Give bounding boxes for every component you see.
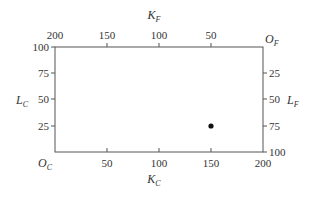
- origin-c-label: OC: [38, 156, 53, 172]
- bottom-tick-150: 150: [203, 157, 220, 169]
- bottom-tick-50: 50: [102, 157, 114, 169]
- right-tick-50: 50: [269, 93, 281, 105]
- left-tick-25: 25: [38, 120, 50, 132]
- left-tick-100: 100: [33, 41, 50, 53]
- left-axis-label: LC: [15, 93, 29, 109]
- right-tick-75: 75: [269, 120, 281, 132]
- right-axis-label: LF: [286, 93, 299, 109]
- top-tick-50: 50: [206, 29, 218, 41]
- top-tick-150: 150: [99, 29, 116, 41]
- left-tick-75: 75: [38, 67, 50, 79]
- allocation-point: [208, 123, 213, 128]
- bottom-axis-ticks: [107, 148, 211, 152]
- top-tick-100: 100: [151, 29, 168, 41]
- right-tick-25: 25: [269, 67, 281, 79]
- left-tick-50: 50: [38, 93, 50, 105]
- top-axis-ticks: [107, 43, 211, 47]
- top-axis-label: KF: [147, 8, 161, 24]
- origin-f-label: OF: [265, 32, 279, 48]
- left-axis-ticks: [51, 47, 55, 126]
- bottom-tick-200: 200: [255, 157, 272, 169]
- bottom-axis-label: KC: [146, 172, 161, 188]
- edgeworth-box-diagram: 50 100 150 200 200 150 100 50 100 75 50 …: [0, 0, 309, 198]
- right-tick-100: 100: [269, 146, 286, 158]
- bottom-tick-100: 100: [151, 157, 168, 169]
- top-tick-200: 200: [47, 29, 64, 41]
- right-axis-ticks: [263, 73, 267, 152]
- edgeworth-box-frame: [55, 47, 263, 152]
